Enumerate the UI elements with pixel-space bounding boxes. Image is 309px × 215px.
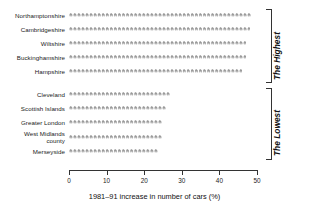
row-label-cleveland: Cleveland xyxy=(2,91,65,98)
axis-tick-label: 50 xyxy=(249,177,265,184)
row-label-merseyside: Merseyside xyxy=(2,148,65,155)
row-label-northamptonshire: Northamptonshire xyxy=(2,12,65,19)
axis-tick xyxy=(144,171,145,175)
bracket-label-lowest: The Lowest xyxy=(272,110,282,156)
bar-merseyside xyxy=(69,147,159,154)
bar-greater-london xyxy=(69,118,163,125)
bracket-label-highest: The Highest xyxy=(272,32,282,80)
row-label-scottish-islands: Scottish Islands xyxy=(2,105,65,112)
axis-tick-label: 0 xyxy=(61,177,77,184)
axis-tick-label: 40 xyxy=(211,177,227,184)
bar-northamptonshire xyxy=(69,11,253,18)
axis-tick-label: 10 xyxy=(99,177,115,184)
row-label-hampshire: Hampshire xyxy=(2,68,65,75)
axis-tick xyxy=(182,171,183,175)
bar-scottish-islands xyxy=(69,104,167,111)
axis-tick xyxy=(219,171,220,175)
row-label-greater-london: Greater London xyxy=(2,119,65,126)
axis-tick xyxy=(69,170,70,175)
axis-tick xyxy=(107,171,108,175)
row-label-buckinghamshire: Buckinghamshire xyxy=(2,54,65,61)
bar-wiltshire xyxy=(69,39,246,46)
axis-tick xyxy=(257,170,258,175)
axis-tick-label: 20 xyxy=(136,177,152,184)
row-label-west-midlands: West Midlands county xyxy=(2,130,65,144)
bar-west-midlands xyxy=(69,133,163,140)
axis-rule xyxy=(69,170,257,171)
x-axis-title: 1981–91 increase in number of cars (%) xyxy=(0,192,309,201)
bar-buckinghamshire xyxy=(69,53,246,60)
axis-tick-label: 30 xyxy=(174,177,190,184)
row-label-cambridgeshire: Cambridgeshire xyxy=(2,26,65,33)
bar-hampshire xyxy=(69,67,242,74)
bar-cambridgeshire xyxy=(69,25,250,32)
pictogram-chart: Northamptonshire Cambridgeshire Wiltshir… xyxy=(0,0,309,215)
row-label-wiltshire: Wiltshire xyxy=(2,40,65,47)
bar-cleveland xyxy=(69,90,171,97)
